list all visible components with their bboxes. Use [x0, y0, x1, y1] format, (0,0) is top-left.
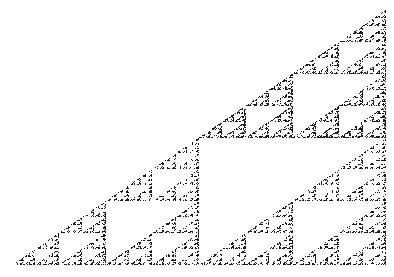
sierpinski-triangle-canvas: [0, 0, 394, 277]
sierpinski-figure: Sierpinski triangle (right-angled varian…: [0, 0, 394, 277]
